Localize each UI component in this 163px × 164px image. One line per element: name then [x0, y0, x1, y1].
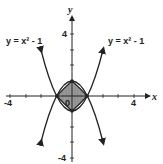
x-axis-label: x — [151, 91, 157, 102]
intersection-point-left — [55, 94, 59, 98]
curve-label-left: y = x² - 1 — [6, 36, 42, 46]
x-tick-label-pos: 4 — [131, 98, 136, 108]
y-axis-label: y — [67, 4, 73, 15]
y-tick-label-pos: 4 — [62, 29, 67, 39]
graph-figure: y x 4 -4 -4 4 0 y = x² - 1 y = x² - 1 — [0, 0, 163, 164]
curve-label-right: y = x² - 1 — [108, 36, 144, 46]
y-tick-label-neg: -4 — [58, 153, 66, 163]
vertex-top — [70, 79, 74, 83]
x-tick-label-neg: -4 — [4, 98, 12, 108]
intersection-point-right — [85, 94, 89, 98]
vertex-bottom — [70, 109, 74, 113]
origin-label: 0 — [65, 98, 70, 108]
